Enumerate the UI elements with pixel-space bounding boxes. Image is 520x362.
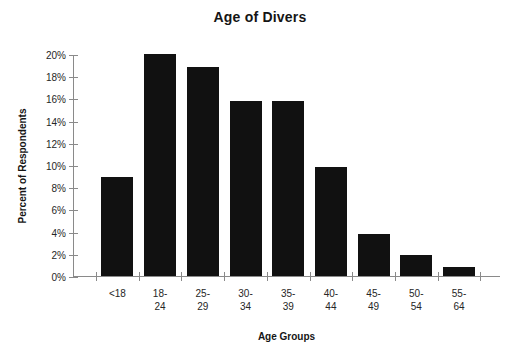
x-axis-tick-mark (310, 272, 311, 281)
y-axis-tick-label: 2% (52, 249, 66, 260)
y-axis-tick-mark (69, 166, 78, 167)
bar[interactable] (400, 255, 432, 276)
x-axis-tick-mark (480, 272, 481, 281)
bar[interactable] (358, 234, 390, 276)
y-axis-tick-mark (69, 210, 78, 211)
y-axis-title: Percent of Respondents (17, 108, 28, 223)
y-axis-tick-label: 8% (52, 183, 66, 194)
x-axis-tick-mark (352, 272, 353, 281)
x-axis-category-label-line: 64 (433, 300, 485, 313)
y-axis-tick-mark (69, 77, 78, 78)
bar[interactable] (101, 177, 133, 276)
y-axis-tick-label: 6% (52, 205, 66, 216)
x-axis-tick-mark (139, 272, 140, 281)
x-axis-tick-mark (395, 272, 396, 281)
y-axis-tick-mark (69, 55, 78, 56)
x-axis-tick-mark (438, 272, 439, 281)
y-axis-tick-mark (69, 99, 78, 100)
x-axis-category-label-line: 55- (433, 287, 485, 300)
y-axis-tick-mark (69, 255, 78, 256)
y-axis-title-container: Percent of Respondents (10, 55, 34, 277)
x-axis-tick-mark (224, 272, 225, 281)
y-axis-tick-label: 10% (46, 161, 66, 172)
y-axis-tick-label: 0% (52, 272, 66, 283)
y-axis-tick-label: 12% (46, 138, 66, 149)
y-axis-tick-label: 16% (46, 94, 66, 105)
bar[interactable] (230, 101, 262, 276)
bar[interactable] (443, 267, 475, 276)
x-axis-title: Age Groups (73, 331, 500, 342)
bar[interactable] (315, 167, 347, 276)
bar[interactable] (187, 67, 219, 276)
chart-title: Age of Divers (0, 9, 520, 25)
plot-area: 0%2%4%6%8%10%12%14%16%18%20% (73, 55, 500, 277)
x-axis-tick-mark (267, 272, 268, 281)
y-axis-tick-mark (69, 277, 78, 278)
y-axis-tick-label: 14% (46, 116, 66, 127)
y-axis-tick-label: 18% (46, 72, 66, 83)
y-axis-tick-mark (69, 233, 78, 234)
bar[interactable] (144, 54, 176, 276)
y-axis-tick-label: 4% (52, 227, 66, 238)
x-axis-line (73, 276, 500, 277)
y-axis-tick-label: 20% (46, 50, 66, 61)
y-axis-tick-mark (69, 144, 78, 145)
bar-chart: Age of Divers Percent of Respondents 0%2… (0, 0, 520, 362)
y-axis-tick-mark (69, 188, 78, 189)
x-axis-tick-mark (181, 272, 182, 281)
bar[interactable] (272, 101, 304, 276)
x-axis-category-label: 55-64 (433, 287, 485, 313)
x-axis-tick-mark (96, 272, 97, 281)
y-axis-tick-mark (69, 122, 78, 123)
